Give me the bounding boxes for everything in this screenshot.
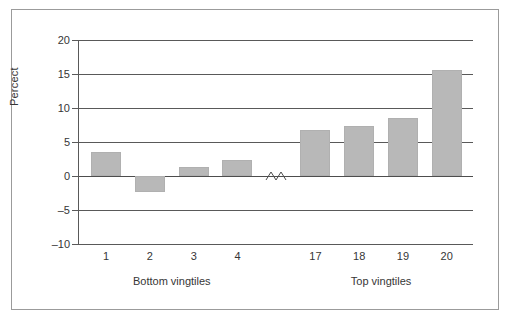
- gridline-10: [79, 108, 473, 109]
- group-label-bottom: Bottom vingtiles: [133, 276, 211, 287]
- y-axis-title: Percect: [8, 67, 20, 106]
- x-tick-label-20: 20: [441, 251, 453, 262]
- y-tick-label: –5: [24, 205, 70, 216]
- bar-vingtile-4: [222, 160, 252, 176]
- x-tick-label-19: 19: [397, 251, 409, 262]
- bar-vingtile-19: [388, 118, 418, 176]
- y-tick-mark: [72, 176, 78, 177]
- bar-vingtile-1: [91, 152, 121, 176]
- bar-vingtile-2: [135, 176, 165, 192]
- x-tick-label-1: 1: [103, 251, 109, 262]
- chart-frame: Percect 20151050–5–10 123417181920 Botto…: [11, 9, 499, 310]
- y-tick-mark: [72, 142, 78, 143]
- y-tick-label: 20: [24, 35, 70, 46]
- bar-vingtile-20: [432, 70, 462, 176]
- y-tick-label: –10: [24, 239, 70, 250]
- y-tick-mark: [72, 244, 78, 245]
- gridline-neg5: [79, 210, 473, 211]
- gridline-15: [79, 74, 473, 75]
- x-tick-label-4: 4: [234, 251, 240, 262]
- bar-vingtile-17: [300, 130, 330, 176]
- y-tick-label: 15: [24, 69, 70, 80]
- x-tick-label-17: 17: [309, 251, 321, 262]
- bar-vingtile-18: [344, 126, 374, 176]
- y-tick-mark: [72, 108, 78, 109]
- y-tick-label: 5: [24, 137, 70, 148]
- bar-vingtile-3: [179, 167, 209, 176]
- axis-break-icon: [265, 169, 287, 183]
- y-tick-mark: [72, 40, 78, 41]
- y-tick-label: 10: [24, 103, 70, 114]
- x-tick-label-3: 3: [191, 251, 197, 262]
- x-tick-label-18: 18: [353, 251, 365, 262]
- x-tick-label-2: 2: [147, 251, 153, 262]
- plot-area: [79, 40, 473, 244]
- y-tick-mark: [72, 74, 78, 75]
- gridline-neg10: [79, 244, 473, 245]
- group-label-top: Top vingtiles: [351, 276, 412, 287]
- y-tick-label: 0: [24, 171, 70, 182]
- gridline-20: [79, 40, 473, 41]
- y-tick-mark: [72, 210, 78, 211]
